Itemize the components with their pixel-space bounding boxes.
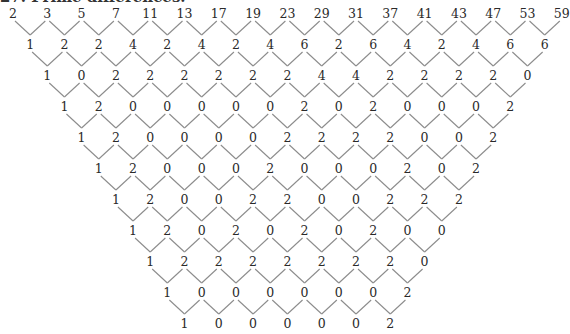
difference-edge <box>221 269 236 283</box>
difference-edge <box>167 207 182 221</box>
difference-edge <box>255 21 270 35</box>
difference-value: 0 <box>215 130 223 145</box>
difference-edge <box>444 114 459 128</box>
prime-value: 3 <box>43 6 51 21</box>
difference-edge <box>221 83 236 97</box>
difference-edge <box>427 83 442 97</box>
difference-value: 0 <box>472 99 480 114</box>
difference-value: 0 <box>198 285 206 300</box>
difference-edge <box>444 176 459 190</box>
difference-edge <box>236 83 251 97</box>
difference-value: 0 <box>301 161 309 176</box>
difference-edge <box>116 52 131 66</box>
prime-value: 37 <box>382 6 398 21</box>
difference-edge <box>253 238 268 252</box>
difference-edge <box>236 207 251 221</box>
difference-edge <box>339 21 354 35</box>
difference-edge <box>133 83 148 97</box>
difference-value: 1 <box>112 192 120 207</box>
difference-value: 0 <box>369 285 377 300</box>
difference-value: 1 <box>181 316 189 331</box>
difference-edge <box>32 52 47 66</box>
difference-edge <box>253 114 268 128</box>
difference-edge <box>476 21 491 35</box>
difference-edge <box>390 52 405 66</box>
difference-value: 0 <box>232 285 240 300</box>
prime-differences-triangle: 27. Prime differences. 23571113171923293… <box>0 0 570 334</box>
difference-edge <box>238 114 253 128</box>
difference-edge <box>324 83 339 97</box>
difference-edge <box>442 83 457 97</box>
difference-edge <box>133 207 148 221</box>
difference-edge <box>461 83 476 97</box>
difference-edge <box>409 176 424 190</box>
difference-value: 6 <box>506 37 514 52</box>
difference-edge <box>236 21 251 35</box>
difference-value: 2 <box>386 192 394 207</box>
difference-edge <box>305 269 320 283</box>
difference-edge <box>101 52 116 66</box>
prime-value: 7 <box>112 6 120 21</box>
prime-value: 31 <box>348 6 364 21</box>
difference-edge <box>476 145 491 159</box>
difference-edge <box>510 21 525 35</box>
difference-value: 0 <box>163 99 171 114</box>
difference-edge <box>375 176 390 190</box>
difference-edge <box>219 114 234 128</box>
prime-value: 47 <box>485 6 501 21</box>
difference-edge <box>255 83 270 97</box>
difference-edge <box>392 83 407 97</box>
difference-edge <box>204 238 219 252</box>
difference-value: 0 <box>524 68 532 83</box>
difference-value: 2 <box>283 130 291 145</box>
difference-edge <box>270 207 285 221</box>
difference-value: 2 <box>369 99 377 114</box>
difference-edge <box>289 207 304 221</box>
difference-value: 6 <box>541 37 549 52</box>
difference-edge <box>167 269 182 283</box>
difference-value: 0 <box>181 130 189 145</box>
difference-edge <box>390 300 405 314</box>
difference-edge <box>407 145 422 159</box>
difference-value: 2 <box>421 192 429 207</box>
difference-edge <box>66 114 81 128</box>
difference-edge <box>204 176 219 190</box>
difference-edge <box>99 145 114 159</box>
difference-edge <box>135 176 150 190</box>
difference-edge <box>375 300 390 314</box>
difference-edge <box>392 145 407 159</box>
difference-edge <box>427 207 442 221</box>
difference-edge <box>373 269 388 283</box>
difference-edge <box>204 52 219 66</box>
difference-value: 2 <box>386 130 394 145</box>
difference-value: 0 <box>181 192 189 207</box>
difference-value: 1 <box>78 130 86 145</box>
difference-edge <box>202 207 217 221</box>
difference-edge <box>185 300 200 314</box>
difference-edge <box>236 269 251 283</box>
prime-value: 2 <box>9 6 17 21</box>
difference-edge <box>407 83 422 97</box>
difference-value: 4 <box>403 37 411 52</box>
difference-edge <box>427 21 442 35</box>
difference-edge <box>356 238 371 252</box>
prime-value: 19 <box>245 6 261 21</box>
difference-edge <box>322 238 337 252</box>
difference-edge <box>495 21 510 35</box>
difference-edge <box>238 238 253 252</box>
difference-edge <box>358 269 373 283</box>
difference-value: 0 <box>198 99 206 114</box>
difference-edge <box>409 114 424 128</box>
difference-edge <box>358 145 373 159</box>
difference-edge <box>150 114 165 128</box>
difference-edge <box>425 52 440 66</box>
difference-value: 4 <box>472 37 480 52</box>
difference-edge <box>82 52 97 66</box>
difference-value: 2 <box>181 68 189 83</box>
difference-edge <box>221 145 236 159</box>
difference-value: 0 <box>438 223 446 238</box>
difference-value: 2 <box>318 254 326 269</box>
difference-value: 2 <box>489 130 497 145</box>
difference-edge <box>187 83 202 97</box>
difference-edge <box>495 83 510 97</box>
